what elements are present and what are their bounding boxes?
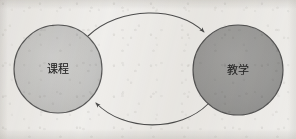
edge-course-to-teaching — [88, 13, 204, 36]
relationship-diagram — [0, 0, 296, 139]
figure-canvas: 课程 教学 — [0, 0, 296, 139]
edge-teaching-to-course — [96, 103, 208, 125]
node-course-label: 课程 — [47, 64, 70, 75]
node-teaching-label: 教学 — [227, 65, 250, 76]
